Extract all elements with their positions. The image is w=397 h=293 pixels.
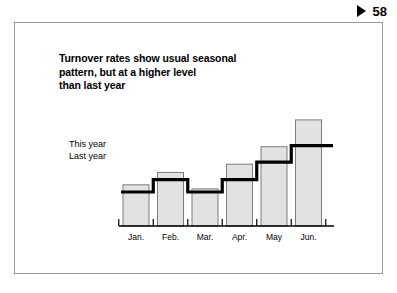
bar-this-year [261, 147, 287, 226]
bars-group [123, 120, 322, 226]
turnover-rates-chart: This year Last year Jan.Feb.Mar.Apr.MayJ… [15, 23, 384, 275]
bar-this-year [227, 164, 253, 226]
bar-this-year [192, 189, 218, 226]
bar-this-year [296, 120, 322, 226]
x-axis-label: Jun. [289, 232, 329, 242]
series-label-last-year: Last year [69, 151, 106, 162]
slide-page: 58 Turnover rates show usual seasonal pa… [0, 0, 397, 293]
page-marker: 58 [357, 2, 387, 20]
series-label-this-year: This year [69, 139, 106, 150]
slide-frame: Turnover rates show usual seasonal patte… [14, 22, 383, 274]
play-triangle-icon [357, 5, 366, 17]
page-number: 58 [373, 5, 387, 18]
